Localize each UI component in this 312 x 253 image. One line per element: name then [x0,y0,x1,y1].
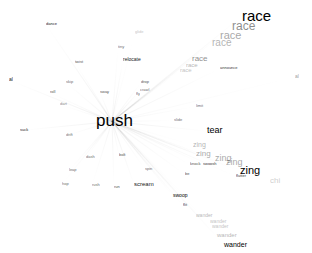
word-node[interactable]: zing [215,154,232,163]
word-node[interactable]: tiny [118,45,124,49]
word-node[interactable]: chi [270,177,280,185]
word-node[interactable]: knock [190,162,200,166]
word-node[interactable]: rush [92,183,100,187]
center-word[interactable]: push [96,112,133,129]
word-node[interactable]: zing [193,141,206,148]
word-node[interactable]: spin [145,167,152,171]
word-node[interactable]: flit [183,203,187,207]
word-node[interactable]: suck [20,128,28,132]
word-node[interactable]: swoosh [203,162,217,166]
word-node[interactable]: announce [220,66,238,70]
word-node[interactable]: bolt [119,153,125,157]
word-node[interactable]: swoop [173,193,187,198]
word-node[interactable]: sway [100,90,109,94]
word-node[interactable]: relocate [123,57,141,62]
word-node[interactable]: drop [141,80,149,84]
word-node[interactable]: glide [135,30,143,34]
word-node[interactable]: wander [217,232,237,238]
word-node[interactable]: race [212,38,231,48]
word-node[interactable]: wander [196,213,212,218]
word-node[interactable]: crawl [140,88,149,92]
word-node[interactable]: wander [212,224,228,229]
word-node[interactable]: twist [75,60,83,64]
word-node[interactable]: drift [66,133,73,137]
word-node[interactable]: hop [62,182,69,186]
word-node[interactable]: dash [86,155,95,159]
word-node[interactable]: dance [46,22,57,26]
word-node[interactable]: al [295,74,299,79]
word-node[interactable]: wander [210,219,226,224]
word-node[interactable]: roll [50,90,55,94]
word-node[interactable]: skip [66,80,73,84]
word-node[interactable]: wander [224,241,247,248]
word-tree-canvas: raceraceraceraceraceraceracetearzingzing… [0,0,312,253]
word-node[interactable]: dart [60,102,67,106]
word-node[interactable]: run [114,185,120,189]
word-node[interactable]: tear [207,126,223,135]
word-node[interactable]: slide [174,118,182,122]
word-node[interactable]: al [9,77,13,82]
word-node[interactable]: zing [196,150,211,158]
word-node[interactable]: race [180,67,192,73]
word-node[interactable]: flutter [236,174,246,178]
word-node[interactable]: leap [69,168,77,172]
word-node[interactable]: limit [196,104,203,108]
word-node[interactable]: scream [134,181,154,187]
word-node[interactable]: fly [136,92,140,96]
word-node[interactable]: be [185,172,189,176]
branch-line [62,121,113,185]
